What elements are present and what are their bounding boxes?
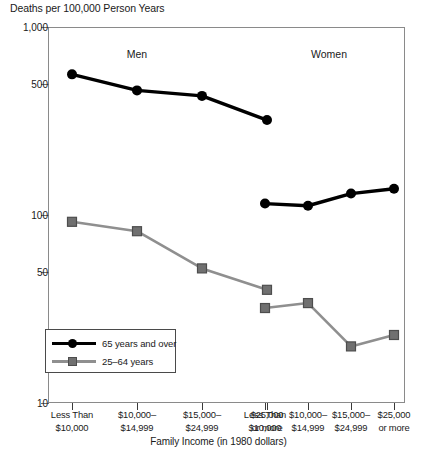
x-tick-label: $15,000–$24,999 <box>183 409 221 434</box>
data-point-square <box>304 299 313 308</box>
series-line <box>265 303 394 346</box>
data-point-square <box>263 285 272 294</box>
legend-item-65-and-over: 65 years and over <box>52 335 176 351</box>
x-tick-label: Less Than$10,000 <box>244 409 286 434</box>
legend-item-25-64-years: 25–64 years <box>52 353 153 369</box>
legend-label: 65 years and over <box>102 338 176 349</box>
x-tick-label-line: $25,000 <box>378 409 411 422</box>
data-point-circle <box>303 201 313 211</box>
data-point-circle <box>197 91 207 101</box>
x-axis-title: Family Income (in 1980 dollars) <box>0 436 437 447</box>
x-tick-label: Less Than$10,000 <box>51 409 93 434</box>
series-men-65-and-over <box>67 69 272 125</box>
legend-square-marker-icon <box>52 354 96 368</box>
data-point-circle <box>260 199 270 209</box>
x-tick-label-line: $24,999 <box>183 422 221 435</box>
legend-label: 25–64 years <box>102 356 153 367</box>
x-tick-label-line: $14,999 <box>289 422 327 435</box>
data-point-circle <box>346 189 356 199</box>
data-point-circle <box>132 85 142 95</box>
x-tick-label-line: $15,000– <box>332 409 370 422</box>
data-point-square <box>68 217 77 226</box>
data-point-square <box>198 264 207 273</box>
series-line <box>265 189 394 206</box>
x-tick-label: $25,000or more <box>378 409 411 434</box>
x-tick-label-line: $10,000 <box>244 422 286 435</box>
legend-circle-marker-icon <box>52 336 96 350</box>
x-tick-label-line: Less Than <box>244 409 286 422</box>
series-line <box>72 74 267 120</box>
data-series-layer <box>0 0 437 463</box>
data-point-square <box>261 304 270 313</box>
x-tick-label: $10,000–$14,999 <box>289 409 327 434</box>
x-tick-label: $10,000–$14,999 <box>118 409 156 434</box>
x-tick-label-line: Less Than <box>51 409 93 422</box>
data-point-square <box>347 342 356 351</box>
series-line <box>72 222 267 290</box>
series-women-65-and-over <box>260 184 399 211</box>
x-tick-label-line: $10,000 <box>51 422 93 435</box>
data-point-square <box>390 330 399 339</box>
legend: 65 years and over 25–64 years <box>45 329 176 373</box>
x-tick-label-line: $24,999 <box>332 422 370 435</box>
x-tick-label-line: $15,000– <box>183 409 221 422</box>
x-tick-label-line: $14,999 <box>118 422 156 435</box>
series-men-25-64 <box>68 217 272 294</box>
data-point-square <box>133 227 142 236</box>
x-tick-label-line: $10,000– <box>118 409 156 422</box>
chart-container: Deaths per 100,000 Person Years 1,000500… <box>0 0 437 463</box>
panel-label-men: Men <box>127 48 147 60</box>
series-women-25-64 <box>261 299 399 351</box>
panel-label-women: Women <box>311 48 347 60</box>
data-point-circle <box>67 69 77 79</box>
x-tick-label: $15,000–$24,999 <box>332 409 370 434</box>
data-point-circle <box>389 184 399 194</box>
x-tick-label-line: or more <box>378 422 411 435</box>
x-tick-label-line: $10,000– <box>289 409 327 422</box>
data-point-circle <box>262 115 272 125</box>
